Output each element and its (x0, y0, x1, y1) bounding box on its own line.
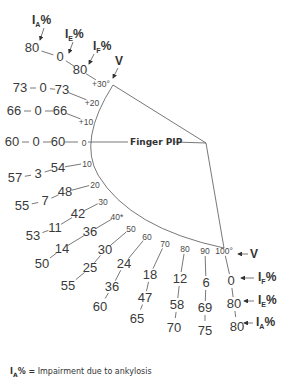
ia-value: 60 (93, 299, 107, 314)
svg-text:IA%: IA% (256, 315, 275, 330)
ie-value: 0 (56, 49, 63, 64)
connector-line (42, 51, 54, 55)
pip-impairment-diagram: Finger PIP IA% IE% IF% V V IF% IE% IA% +… (0, 0, 297, 385)
svg-text:IE%: IE% (258, 293, 277, 308)
legend-text: Impairment due to ankylosis (38, 367, 152, 376)
connector-line (32, 202, 38, 203)
if-value: 24 (117, 256, 131, 271)
angle-label: +20 (85, 98, 100, 108)
legend-symbol: IA% = (10, 367, 35, 376)
flexion-arc (91, 85, 224, 248)
angle-label: 80 (180, 244, 190, 254)
connector-line (175, 312, 176, 318)
connector-line (25, 175, 31, 176)
flexion-limit-line (206, 143, 224, 248)
angle-label: 30 (98, 197, 108, 207)
ia-value: 73 (13, 80, 27, 95)
ie-value: 11 (48, 220, 62, 235)
ia-value: 80 (230, 319, 244, 334)
ia-value: 60 (5, 134, 19, 149)
angle-label: +30° (92, 79, 110, 89)
ie-value: 7 (41, 193, 48, 208)
connector-line (225, 256, 229, 274)
ie-value: 36 (105, 279, 119, 294)
value-rows: +30°80080+2073073+1066066060060105435720… (5, 40, 244, 338)
arrow-if (89, 54, 94, 64)
ia-value: 66 (7, 103, 21, 118)
if-value: 66 (53, 103, 67, 118)
connector-line (235, 311, 236, 317)
connector-line (84, 204, 97, 211)
ie-value: 58 (170, 297, 184, 312)
ie-value: 0 (34, 103, 41, 118)
angle-label: 0 (82, 138, 87, 148)
ie-value: 0 (32, 134, 39, 149)
ie-value: 25 (83, 260, 97, 275)
if-value: 60 (51, 134, 65, 149)
connector-line (141, 305, 143, 310)
arrow-ie (69, 42, 73, 53)
connector-line (68, 236, 84, 246)
angle-label: 60 (142, 232, 152, 242)
ie-value: 69 (198, 300, 212, 315)
ia-value: 75 (198, 323, 212, 338)
svg-text:V: V (250, 247, 258, 261)
arrow-ia (40, 28, 44, 40)
connector-line (153, 248, 162, 268)
header-ia-bottom: IA% (244, 315, 275, 330)
header-if-bottom: IF% (241, 270, 277, 285)
ia-value: 50 (35, 256, 49, 271)
ie-value: 14 (55, 241, 69, 256)
if-value: 12 (173, 271, 187, 286)
svg-text:IF%: IF% (258, 270, 277, 285)
header-v-bottom: V (238, 247, 258, 261)
if-value: 73 (55, 82, 69, 97)
connector-line (181, 254, 184, 272)
svg-text:IA%: IA% (32, 13, 51, 28)
header-v: V (113, 54, 123, 78)
joint-label: Finger PIP (130, 137, 183, 147)
angle-label: 90 (200, 246, 210, 256)
svg-text:IF%: IF% (93, 39, 112, 54)
angle-label: 70 (160, 239, 170, 249)
arrow-v (113, 68, 118, 78)
ie-value: 47 (138, 290, 152, 305)
connector-line (65, 164, 81, 167)
ia-value: 57 (8, 170, 22, 185)
legend: IA% = Impairment due to ankylosis (10, 367, 152, 378)
if-value: 80 (73, 62, 87, 77)
connector-line (72, 186, 89, 191)
angle-label: 10 (82, 159, 92, 169)
angle-label: 40* (111, 212, 124, 222)
ia-value: 70 (167, 320, 181, 335)
header-ia: IA% (32, 13, 51, 40)
header-if: IF% (89, 39, 112, 64)
connector-line (110, 232, 126, 246)
ia-value: 55 (61, 278, 75, 293)
if-value: 42 (71, 206, 85, 221)
angle-label: 20 (90, 180, 100, 190)
if-value: 30 (98, 242, 112, 257)
header-ie-bottom: IE% (244, 293, 277, 308)
angle-label: 100° (215, 246, 233, 256)
if-value: 36 (83, 224, 97, 239)
if-value: 18 (143, 267, 157, 282)
if-value: 48 (58, 184, 72, 199)
ie-value: 3 (34, 166, 41, 181)
connector-line (68, 93, 86, 100)
connector-line (96, 219, 112, 228)
extension-limit-line (113, 85, 206, 143)
ia-value: 65 (130, 311, 144, 326)
angle-label: +10 (79, 117, 94, 127)
if-value: 0 (227, 273, 234, 288)
ie-value: 0 (39, 80, 46, 95)
ie-value: 80 (227, 296, 241, 311)
svg-text:V: V (115, 54, 123, 68)
header-ie: IE% (65, 27, 84, 53)
ia-value: 55 (15, 198, 29, 213)
if-value: 54 (51, 160, 65, 175)
angle-label: 50 (126, 224, 136, 234)
connector-line (205, 256, 206, 276)
if-value: 6 (202, 275, 209, 290)
svg-text:IE%: IE% (65, 27, 84, 42)
